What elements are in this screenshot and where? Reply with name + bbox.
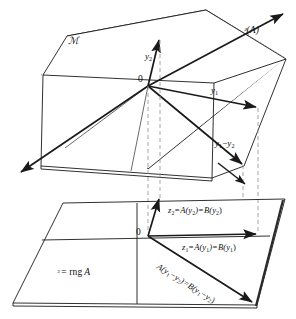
range-script-w: ᵌ	[57, 267, 59, 277]
range-plane-label: ᵌ= rngA	[57, 268, 90, 278]
range-eq: = rng	[61, 267, 82, 277]
vector-z1	[148, 234, 256, 236]
null-space-script-n: ᵊ(A)	[244, 25, 259, 35]
range-a: A	[84, 267, 90, 277]
label-z2-end: )	[219, 205, 222, 215]
label-z2-mid2: )=B(y	[195, 205, 216, 215]
label-y2: y2	[145, 52, 152, 62]
label-z1-equation: z1=A(y1)=B(y1)	[182, 243, 236, 253]
label-z1-mid2: )=B(y	[209, 242, 230, 252]
arrow-between-planes	[218, 163, 245, 184]
label-y1: y1	[211, 86, 218, 96]
origin-label-top: 0	[138, 75, 143, 85]
label-y1my2-b-sub: 2	[231, 143, 234, 149]
inter-plane-arrows	[218, 163, 245, 184]
label-z1-mid: =A(y	[188, 242, 206, 252]
top-plane-label: ℳ	[68, 36, 79, 46]
mathematical-diagram: ℳ ᵊ(A) y2 0 y1 y1−y2 z2=A(y2)=B(y2) z1=A…	[0, 0, 296, 319]
bottom-plane-edges	[13, 199, 285, 308]
label-z2-mid: =A(y	[174, 205, 192, 215]
label-y1-minus-y2: y1−y2	[215, 139, 235, 149]
null-space-label: ᵊ(A)	[244, 26, 259, 36]
origin-label-bottom: 0	[136, 228, 141, 238]
vector-z2	[148, 199, 159, 236]
label-z2-equation: z2=A(y2)=B(y2)	[168, 206, 222, 216]
diagram-canvas	[0, 0, 296, 319]
label-y2-sub: 2	[149, 56, 152, 62]
label-z1-end: )	[233, 242, 236, 252]
bottom-plane-thick-right-edge	[256, 200, 283, 306]
label-y1-sub: 1	[215, 90, 218, 96]
